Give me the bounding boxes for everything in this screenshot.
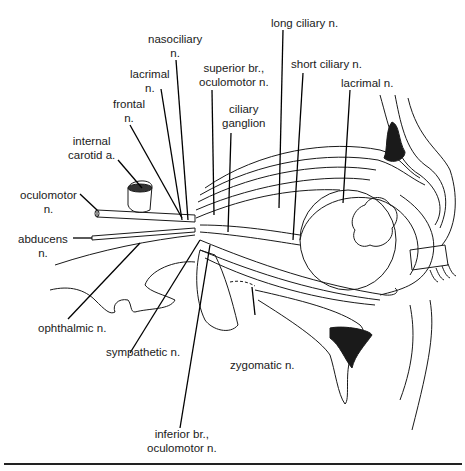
label-inferior-br-oculomotor-n: inferior br., oculomotor n.: [147, 427, 217, 455]
abducens-nerve: [92, 228, 195, 240]
label-short-ciliary-n: short ciliary n.: [291, 57, 362, 71]
label-sympathetic-n: sympathetic n.: [106, 345, 180, 359]
label-lacrimal-n-left: lacrimal n.: [130, 67, 170, 95]
label-nasociliary-n: nasociliary n.: [148, 32, 202, 60]
label-superior-br-oculomotor-n: superior br., oculomotor n.: [199, 61, 269, 89]
label-frontal-n: frontal n.: [113, 97, 145, 125]
eyeball: [300, 190, 396, 290]
leader-lines: [68, 30, 350, 428]
label-ophthalmic-n: ophthalmic n.: [38, 321, 106, 335]
label-zygomatic-n: zygomatic n.: [230, 358, 295, 372]
figure-rule: [4, 463, 462, 465]
label-lacrimal-n-right: lacrimal n.: [341, 76, 393, 90]
label-internal-carotid-a: internal carotid a.: [68, 134, 115, 162]
label-abducens-n: abducens n.: [18, 232, 68, 260]
lacrimal-gland: [352, 198, 397, 247]
frontal-sinus: [384, 122, 405, 161]
label-oculomotor-n: oculomotor n.: [20, 188, 77, 216]
label-ciliary-ganglion: ciliary ganglion: [222, 102, 265, 130]
label-long-ciliary-n: long ciliary n.: [271, 16, 338, 30]
maxillary-sinus: [330, 327, 372, 368]
